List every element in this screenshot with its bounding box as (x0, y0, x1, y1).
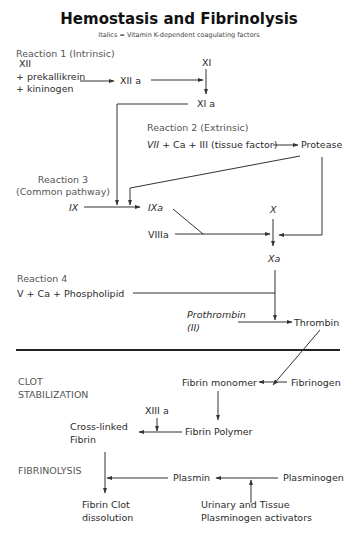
plasminogen: Plasminogen (283, 472, 344, 483)
arrow-protease-to-ix (130, 156, 300, 205)
factor-viiia: VIIIa (148, 229, 169, 240)
fibrin-clot-dissolution-line2: dissolution (82, 512, 133, 523)
activators-line1: Urinary and Tissue (201, 499, 290, 510)
factor-xiia: XII a (120, 75, 141, 86)
reaction4-formula: V + Ca + Phospholipid (17, 288, 124, 299)
factor-xi: XI (202, 57, 211, 68)
page-title: Hemostasis and Fibrinolysis (60, 10, 298, 28)
factor-xia: XI a (197, 98, 215, 109)
activators-line2: Plasminogen activators (201, 512, 312, 523)
fibrinolysis-label: FIBRINOLYSIS (18, 465, 81, 476)
protease: Protease (301, 139, 342, 150)
prothrombin-code: (II) (187, 322, 200, 333)
reaction3-label-line2: (Common pathway) (16, 186, 110, 197)
factor-xii: XII (19, 58, 31, 69)
fibrin-polymer: Fibrin Polymer (185, 426, 253, 437)
clot-stabilization-label-line1: CLOT (18, 376, 43, 387)
factor-xiiia: XIII a (145, 405, 169, 416)
clot-stabilization-label-line2: STABILIZATION (18, 389, 88, 400)
page-subtitle: Italics = Vitamin K-dependent coagulatin… (98, 31, 260, 39)
cross-linked-fibrin-line2: Fibrin (70, 434, 96, 445)
reaction4-label: Reaction 4 (17, 273, 67, 284)
factor-x: X (269, 204, 277, 215)
reaction2-formula: VII + Ca + III (tissue factor) (147, 139, 277, 150)
factor-vii: VII (147, 139, 159, 150)
kininogen: + kininogen (16, 83, 74, 94)
fibrin-clot-dissolution-line1: Fibrin Clot (82, 499, 130, 510)
factor-xa: Xa (267, 253, 281, 264)
fibrin-monomer: Fibrin monomer (182, 377, 257, 388)
reaction2-label: Reaction 2 (Extrinsic) (147, 122, 249, 133)
cross-linked-fibrin-line1: Cross-linked (70, 421, 128, 432)
coagulation-diagram: Hemostasis and Fibrinolysis Italics = Vi… (0, 0, 358, 536)
arrow-protease-to-x (279, 157, 322, 235)
plasmin: Plasmin (173, 472, 210, 483)
reaction3-label-line1: Reaction 3 (38, 174, 88, 185)
reaction2-formula-rest: + Ca + III (tissue factor) (159, 139, 277, 150)
thrombin: Thrombin (293, 317, 339, 328)
arrow-xia-to-ix (117, 104, 188, 205)
factor-ix: IX (69, 202, 79, 213)
line-ixa-join (173, 209, 203, 234)
factor-ixa: IXa (148, 202, 163, 213)
prekallikrein: + prekallikrein (16, 71, 85, 82)
fibrinogen: Fibrinogen (291, 377, 341, 388)
prothrombin: Prothrombin (187, 309, 246, 320)
